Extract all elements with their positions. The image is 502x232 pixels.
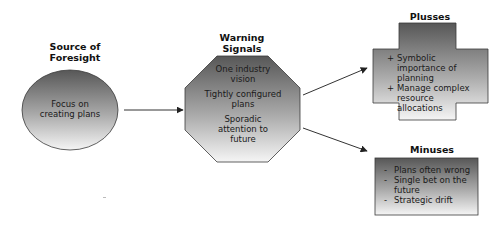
warning-item-line: plans [187, 99, 299, 109]
minuses-item: - Single bet on the future [384, 175, 478, 195]
warning-title: Warning Signals [192, 32, 292, 54]
minuses-item: - Plans often wrong [384, 165, 478, 175]
source-body-line: creating plans [22, 109, 118, 119]
plus-bullet-icon: + [387, 83, 394, 93]
warning-body: One industry vision Tightly configured p… [187, 64, 299, 149]
plusses-item-line: Manage complex [397, 83, 487, 93]
warning-item-line: Sporadic [187, 114, 299, 124]
stray-mark [103, 197, 106, 198]
warning-title-line: Warning [192, 32, 292, 43]
source-title-line: Foresight [25, 52, 125, 63]
minuses-item-line: Plans often wrong [394, 165, 478, 175]
plusses-item-line: resource [397, 93, 487, 103]
warning-item-line: Tightly configured [187, 89, 299, 99]
minuses-item: - Strategic drift [384, 195, 478, 205]
warning-item: Sporadic attention to future [187, 114, 299, 144]
arrow-warning-to-plusses [303, 68, 367, 95]
plusses-item-line: planning [397, 73, 487, 83]
minuses-list: - Plans often wrong - Single bet on the … [384, 165, 478, 205]
minus-bullet-icon: - [384, 165, 387, 175]
minus-bullet-icon: - [384, 195, 387, 205]
source-title: Source of Foresight [25, 41, 125, 63]
plus-bullet-icon: + [387, 53, 394, 63]
warning-item-line: One industry [187, 64, 299, 74]
plusses-item: + Manage complex resource allocations [387, 83, 487, 113]
plusses-item-line: allocations [397, 103, 487, 113]
arrow-warning-to-minuses [303, 128, 367, 151]
source-body: Focus on creating plans [22, 99, 118, 119]
plusses-title: Plusses [390, 11, 470, 22]
plusses-list: + Symbolic importance of planning + Mana… [387, 53, 487, 113]
warning-item-line: attention to [187, 124, 299, 134]
warning-title-line: Signals [192, 43, 292, 54]
warning-item-line: future [187, 134, 299, 144]
warning-item-line: vision [187, 74, 299, 84]
warning-item: Tightly configured plans [187, 89, 299, 109]
minus-bullet-icon: - [384, 175, 387, 185]
plusses-item-line: Symbolic [397, 53, 487, 63]
minuses-title: Minuses [392, 144, 472, 155]
minuses-item-line: future [394, 185, 478, 195]
minuses-item-line: Single bet on the [394, 175, 478, 185]
plusses-item-line: importance of [397, 63, 487, 73]
warning-item: One industry vision [187, 64, 299, 84]
plusses-item: + Symbolic importance of planning [387, 53, 487, 83]
source-body-line: Focus on [22, 99, 118, 109]
source-title-line: Source of [25, 41, 125, 52]
minuses-item-line: Strategic drift [394, 195, 478, 205]
